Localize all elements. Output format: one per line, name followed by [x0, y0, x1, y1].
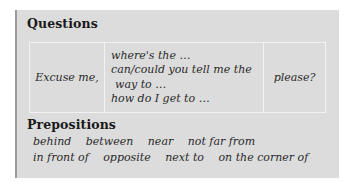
preposition: on the corner of — [218, 151, 308, 164]
question-phrase: how do I get to … — [111, 92, 252, 107]
question-phrases-cell: where's the … can/could you tell me the … — [105, 43, 264, 112]
question-phrase: can/could you tell me the — [111, 63, 252, 78]
closing-phrase-cell: please? — [264, 43, 325, 112]
opening-phrase-cell: Excuse me, — [30, 43, 105, 112]
preposition: between — [86, 135, 134, 148]
prepositions-heading: Prepositions — [27, 117, 116, 132]
preposition: in front of — [33, 151, 89, 164]
preposition: near — [148, 135, 173, 148]
preposition: next to — [165, 151, 204, 164]
opening-phrase: Excuse me, — [35, 71, 99, 84]
questions-table: Excuse me, where's the … can/could you t… — [29, 42, 326, 113]
question-phrase: where's the … — [111, 49, 252, 64]
preposition: opposite — [103, 151, 150, 164]
question-phrase: way to … — [111, 78, 252, 93]
closing-phrase: please? — [274, 71, 316, 84]
language-box-panel: Questions Excuse me, where's the … can/c… — [15, 10, 339, 178]
prepositions-row: in front of opposite next to on the corn… — [33, 150, 319, 166]
question-phrases-list: where's the … can/could you tell me the … — [111, 49, 252, 107]
prepositions-row: behind between near not far from — [33, 134, 319, 150]
preposition: behind — [33, 135, 71, 148]
questions-heading: Questions — [27, 16, 98, 31]
preposition: not far from — [188, 135, 255, 148]
prepositions-list: behind between near not far from in fron… — [33, 134, 319, 166]
